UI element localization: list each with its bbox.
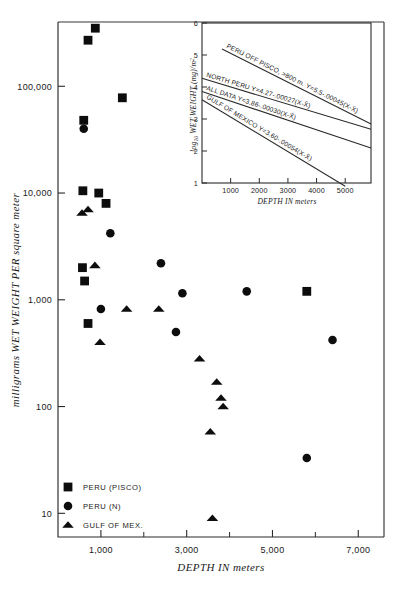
y-tick-label: 10 xyxy=(41,509,52,519)
data-point xyxy=(242,287,251,296)
data-point xyxy=(80,277,89,286)
data-point xyxy=(79,116,88,125)
y-tick-label: 100,000 xyxy=(17,82,52,92)
y-tick-label: 1,000 xyxy=(28,295,52,305)
legend-label: PERU (N) xyxy=(83,502,121,511)
legend-label: PERU (PISCO) xyxy=(83,483,142,492)
data-point xyxy=(78,263,87,272)
data-point xyxy=(118,93,127,102)
inset-x-tick-label: 3000 xyxy=(280,186,297,195)
data-point xyxy=(157,259,166,268)
data-point xyxy=(106,229,115,238)
inset-x-tick-label: 5000 xyxy=(337,186,354,195)
x-tick-label: 5,000 xyxy=(260,545,284,555)
y-tick-label: 100 xyxy=(36,402,52,412)
data-point xyxy=(328,336,337,345)
data-point xyxy=(78,186,87,195)
x-tick-label: 7,000 xyxy=(346,545,370,555)
inset-x-tick-label: 4000 xyxy=(308,186,325,195)
scatter-chart: 101001,00010,000100,000 1,0003,0005,0007… xyxy=(0,0,412,589)
inset-x-tick-label: 1000 xyxy=(222,186,239,195)
data-point xyxy=(302,454,311,463)
x-axis-title: DEPTH IN meters xyxy=(176,561,264,573)
x-tick-label: 1,000 xyxy=(89,545,113,555)
y-axis-title: milligrams WET WEIGHT PER square meter xyxy=(9,192,21,407)
data-point xyxy=(91,24,100,33)
y-tick-label: 10,000 xyxy=(23,188,52,198)
inset-x-axis-title: DEPTH IN meters xyxy=(256,197,316,206)
data-point xyxy=(302,287,311,296)
data-point xyxy=(172,328,181,337)
data-point xyxy=(84,36,93,45)
data-point xyxy=(97,305,106,314)
inset-chart: 123456 10002000300040005000 PERU OFF PIS… xyxy=(189,19,371,206)
data-point xyxy=(102,199,111,208)
inset-y-tick-label: 6 xyxy=(194,19,198,28)
data-point xyxy=(79,124,88,133)
legend-marker-circle xyxy=(64,502,73,511)
data-point xyxy=(178,289,187,298)
x-tick-label: 3,000 xyxy=(175,545,199,555)
legend-label: GULF OF MEX. xyxy=(83,521,143,530)
inset-x-tick-label: 2000 xyxy=(251,186,268,195)
legend-marker-square xyxy=(64,483,73,492)
figure-container: 101001,00010,000100,000 1,0003,0005,0007… xyxy=(0,0,412,589)
data-point xyxy=(84,319,93,328)
inset-y-tick-label: 1 xyxy=(194,179,198,188)
data-point xyxy=(94,189,103,198)
